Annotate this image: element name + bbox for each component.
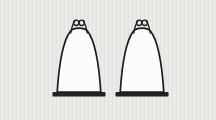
gas-mantle-right: [116, 20, 169, 97]
mantle-body: [57, 28, 101, 92]
mantle-body: [120, 28, 164, 92]
illustration-canvas: [0, 0, 216, 120]
gas-mantle-left: [53, 20, 106, 97]
gas-mantles-drawing: [0, 0, 216, 120]
